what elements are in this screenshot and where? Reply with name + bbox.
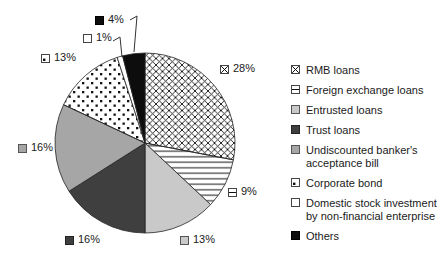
pie-callout-corporate-bond: 13% [41,51,76,64]
callout-label: 13% [193,233,215,246]
legend-item-others: Others [291,230,438,243]
callout-label: 28% [233,62,255,75]
legend-item-domestic-stock-investment: Domestic stock investment by non-financi… [291,197,438,223]
callout-label: 9% [241,185,257,198]
callout-label: 1% [96,31,112,44]
callout-swatch-corporate-bond-icon [41,54,50,63]
legend-label: Entrusted loans [306,104,438,117]
callout-swatch-undiscounted-bankers-acceptance-bill-icon [18,144,27,153]
pie-slices [55,53,235,233]
legend-label: Trust loans [306,124,438,137]
legend-swatch-rmb-loans-icon [291,65,300,74]
legend-item-entrusted-loans: Entrusted loans [291,104,438,117]
callout-label: 16% [78,233,100,246]
pie-callout-rmb-loans: 28% [220,62,255,75]
legend-item-corporate-bond: Corporate bond [291,177,438,190]
callout-label: 4% [108,13,124,26]
legend-item-foreign-exchange-loans: Foreign exchange loans [291,84,438,97]
pie-callout-others: 4% [95,13,124,26]
legend-swatch-trust-loans-icon [291,125,300,134]
chart-legend: RMB loans Foreign exchange loans Entrust… [291,64,438,243]
pie-callout-trust-loans: 16% [65,233,100,246]
callout-leader-others [130,16,137,52]
financing-structure-pie-figure: 28% 9% 13% 16% 16% 13% 1% 4% RMB loans F… [0,0,447,255]
legend-item-trust-loans: Trust loans [291,124,438,137]
callout-swatch-others-icon [95,16,104,25]
callout-leader-domestic-stock [113,37,122,57]
callout-swatch-rmb-loans-icon [220,65,229,74]
legend-item-rmb-loans: RMB loans [291,64,438,77]
pie-callout-undiscounted-bankers-acceptance-bill: 16% [18,141,53,154]
legend-label: Foreign exchange loans [306,84,438,97]
legend-label: Corporate bond [306,177,438,190]
legend-swatch-undiscounted-bankers-acceptance-bill-icon [291,145,300,154]
legend-swatch-corporate-bond-icon [291,178,300,187]
legend-label: Domestic stock investment by non-financi… [306,197,438,223]
callout-swatch-foreign-exchange-loans-icon [228,188,237,197]
callout-swatch-domestic-stock-investment-icon [83,34,92,43]
legend-swatch-foreign-exchange-loans-icon [291,85,300,94]
callout-label: 13% [54,51,76,64]
legend-label: Undiscounted banker's acceptance bill [306,144,438,170]
legend-label: Others [306,230,438,243]
pie-callout-foreign-exchange-loans: 9% [228,185,257,198]
callout-swatch-entrusted-loans-icon [180,236,189,245]
pie-callout-domestic-stock-investment: 1% [83,31,112,44]
pie-callout-entrusted-loans: 13% [180,233,215,246]
legend-swatch-entrusted-loans-icon [291,105,300,114]
legend-swatch-others-icon [291,231,300,240]
callout-swatch-trust-loans-icon [65,236,74,245]
legend-item-undiscounted-bankers-acceptance-bill: Undiscounted banker's acceptance bill [291,144,438,170]
legend-swatch-domestic-stock-investment-icon [291,198,300,207]
callout-label: 16% [31,141,53,154]
legend-label: RMB loans [306,64,438,77]
